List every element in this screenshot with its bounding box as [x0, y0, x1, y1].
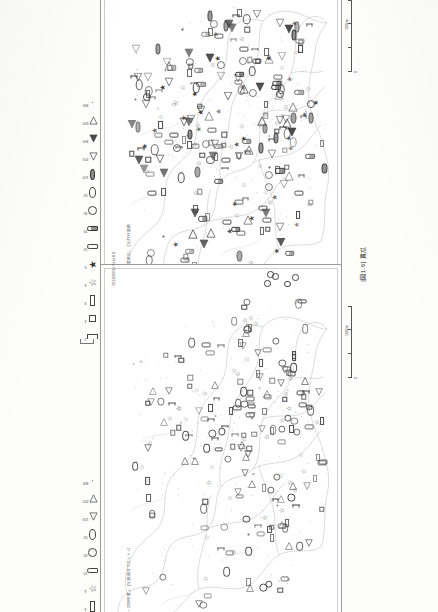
capsule-open-symbol	[240, 46, 247, 53]
legend-item[interactable]: 300	[72, 133, 98, 144]
locality-point	[237, 156, 238, 157]
capsule-open-symbol	[278, 438, 285, 445]
map-marker	[161, 189, 167, 195]
capsule-open-symbol	[201, 416, 208, 423]
map-marker	[300, 377, 309, 386]
legend-item[interactable]: 20	[72, 547, 98, 558]
map-marker	[247, 61, 250, 64]
ellipse-open-symbol	[182, 432, 190, 440]
map-marker: ☆	[257, 163, 263, 169]
legend-item[interactable]: 200	[72, 151, 98, 162]
legend-item[interactable]: 500	[72, 115, 98, 126]
legend-item[interactable]: 4☆	[72, 583, 98, 594]
locality-point	[291, 565, 292, 566]
legend-item[interactable]: 50	[72, 187, 98, 198]
map-marker	[252, 9, 262, 19]
locality-point	[208, 556, 209, 557]
star-open-symbol: ☆	[239, 123, 245, 129]
legend-item-symbol	[87, 565, 98, 576]
map-marker: ☆	[263, 434, 269, 440]
legend-item[interactable]: NR	[72, 97, 98, 108]
bracket-symbol	[307, 23, 312, 28]
offshore-marker	[285, 281, 291, 287]
map-marker	[295, 212, 301, 218]
capsule-filled-symbol	[306, 152, 314, 160]
locality-point	[289, 76, 290, 77]
capsule-open-symbol	[155, 131, 162, 138]
map-marker	[304, 110, 307, 113]
locality-point	[286, 426, 287, 427]
map-marker: ☆	[183, 416, 189, 422]
triangle-open-symbol	[304, 539, 312, 547]
map-marker	[200, 505, 208, 513]
legend-item-symbol	[87, 115, 98, 126]
map-marker	[215, 178, 223, 186]
locality-point	[319, 424, 320, 425]
map-frame-bottom: ☆☆☆☆☆☆☆☆☆☆☆☆☆☆☆☆☆☆☆☆☆☆☆☆☆☆☆☆☆☆☆☆☆☆☆☆☆	[100, 264, 342, 612]
capsule-open-symbol	[223, 219, 230, 226]
legend-item[interactable]: NR	[72, 475, 98, 486]
locality-point	[296, 393, 297, 394]
locality-point	[232, 430, 233, 431]
locality-point	[223, 227, 224, 228]
legend-bottom[interactable]: 1234☆102050100200NR	[72, 475, 98, 612]
map-marker	[257, 116, 267, 126]
rect-wide-symbol	[161, 189, 167, 195]
circle-open-symbol	[293, 429, 300, 436]
map-marker	[306, 424, 313, 431]
legend-item[interactable]: 20	[72, 223, 98, 234]
map-marker	[215, 33, 222, 40]
locality-point	[202, 169, 203, 170]
map-marker	[265, 171, 273, 179]
locality-point	[289, 125, 290, 126]
offshore-marker	[273, 274, 279, 280]
map-marker	[280, 366, 288, 374]
star-open-symbol: ☆	[263, 434, 269, 440]
dot-symbol	[258, 386, 261, 389]
triangle-right-open-symbol	[276, 494, 285, 503]
map-marker: ☆	[206, 480, 212, 486]
legend-item[interactable]: 3	[72, 601, 98, 612]
legend-item[interactable]: 50	[72, 529, 98, 540]
bracket-symbol	[219, 547, 224, 552]
triangle-filled-symbol	[184, 48, 194, 58]
legend-item[interactable]: 30	[72, 205, 98, 216]
map-marker: ☆	[279, 64, 285, 70]
locality-point	[240, 19, 241, 20]
dot-symbol	[297, 50, 300, 53]
map-marker	[238, 342, 246, 350]
map-marker	[297, 50, 300, 53]
map-marker	[245, 548, 253, 556]
ellipse-open-symbol	[248, 67, 257, 76]
locality-point	[272, 119, 273, 120]
locality-point	[136, 53, 137, 54]
legend-item[interactable]: 200	[72, 493, 98, 504]
map-marker	[239, 84, 249, 94]
capsule-open-symbol	[235, 198, 242, 205]
legend-item[interactable]: 10	[72, 565, 98, 576]
map-marker	[302, 482, 310, 490]
ellipse-open-symbol	[88, 188, 97, 197]
capsule-open-symbol	[248, 403, 255, 410]
map-marker: ☆	[231, 367, 237, 373]
map-marker: ☆	[305, 86, 311, 92]
triangle-open-symbol	[164, 387, 172, 395]
star-open-symbol: ☆	[193, 387, 199, 393]
map-marker	[202, 31, 210, 39]
map-marker	[205, 12, 214, 21]
locality-point	[278, 219, 279, 220]
capsule-open-symbol	[209, 127, 216, 134]
triangle-filled-symbol	[139, 164, 149, 174]
locality-point	[212, 152, 213, 153]
map-marker	[268, 166, 271, 169]
legend-item[interactable]: 100	[72, 169, 98, 180]
legend-item[interactable]: 100	[72, 511, 98, 522]
map-marker: ☆	[209, 464, 215, 470]
locality-point	[247, 135, 248, 136]
capsule-open-symbol	[295, 190, 302, 197]
map-marker	[222, 166, 227, 171]
map-marker	[277, 587, 282, 592]
locality-point	[251, 141, 252, 142]
capsule-open-symbol	[215, 446, 222, 453]
map-marker	[297, 390, 304, 397]
